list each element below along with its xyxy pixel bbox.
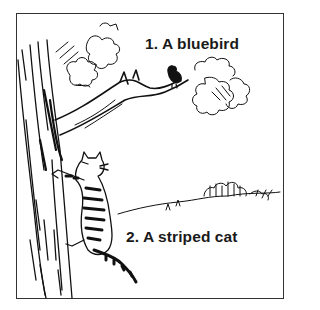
foliage-left [56, 23, 120, 87]
trunk-shading [40, 90, 62, 170]
striped-cat [52, 152, 136, 282]
tree-branch [55, 70, 188, 135]
label-striped-cat: 2. A striped cat [126, 229, 238, 245]
distant-bushes [118, 182, 280, 214]
foliage-right [193, 57, 250, 115]
label-bluebird: 1. A bluebird [145, 36, 239, 52]
